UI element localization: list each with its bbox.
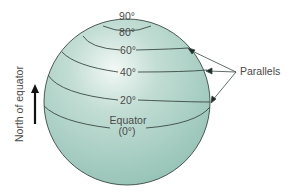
label-20: 20° bbox=[120, 95, 136, 106]
north-arrow-icon bbox=[31, 84, 39, 124]
label-80: 80° bbox=[119, 27, 135, 38]
globe-diagram bbox=[0, 0, 292, 195]
north-of-equator-label: North of equator bbox=[14, 66, 25, 142]
equator-label: Equator bbox=[110, 115, 147, 126]
label-60: 60° bbox=[120, 45, 136, 56]
label-40: 40° bbox=[120, 67, 136, 78]
equator-degree-label: (0°) bbox=[118, 126, 135, 137]
label-90: 90° bbox=[119, 11, 135, 22]
parallels-label: Parallels bbox=[240, 66, 280, 77]
